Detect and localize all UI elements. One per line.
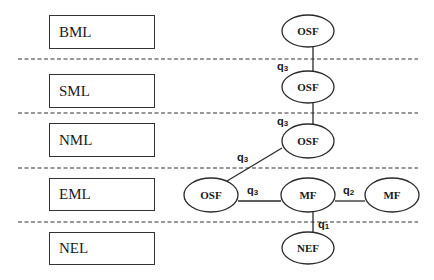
reference-point-label: q2 [343, 184, 355, 197]
layer-box-eml: EML [49, 178, 155, 211]
node-osf_nml: OSF [282, 124, 334, 158]
reference-point-label: q1 [318, 218, 330, 231]
layer-label-eml: EML [59, 186, 91, 203]
node-mf_eml: MF [281, 178, 335, 212]
node-label: MF [383, 189, 400, 201]
ellipse-shape [282, 124, 334, 158]
node-label: OSF [297, 81, 319, 93]
node-mf_eml_right: MF [365, 178, 419, 212]
node-label: NEF [297, 242, 319, 254]
layer-box-nml: NML [49, 123, 155, 157]
layer-label-nel: NEL [59, 240, 88, 257]
layer-box-sml: SML [49, 74, 155, 108]
ellipse-shape [282, 71, 334, 103]
layer-label-sml: SML [59, 83, 90, 100]
reference-point-label: q3 [237, 151, 249, 164]
ellipse-shape [184, 178, 238, 212]
node-osf_eml: OSF [184, 178, 238, 212]
reference-point-label: q3 [277, 60, 289, 73]
ellipse-shape [281, 178, 335, 212]
node-label: MF [299, 189, 316, 201]
layer-box-nel: NEL [49, 232, 155, 265]
layer-label-nml: NML [59, 132, 92, 149]
node-label: OSF [297, 135, 319, 147]
node-osf_sml: OSF [282, 71, 334, 103]
ellipse-shape [282, 15, 334, 47]
node-label: OSF [297, 25, 319, 37]
reference-point-links: q3q3q3q3q2q1 [227, 47, 365, 232]
layer-box-bml: BML [49, 15, 155, 49]
ellipse-shape [282, 232, 334, 264]
link-osf_nml-osf_eml [227, 148, 282, 181]
reference-point-label: q3 [277, 115, 289, 128]
layer-label-bml: BML [59, 24, 92, 41]
reference-point-label: q3 [247, 184, 259, 197]
function-nodes: OSFOSFOSFOSFMFMFNEF [184, 15, 419, 264]
ellipse-shape [365, 178, 419, 212]
node-osf_bml: OSF [282, 15, 334, 47]
management-layers-diagram: BML SML NML EML NEL q3q3q3q3q2q1 OSFOSFO… [0, 0, 434, 280]
node-label: OSF [200, 189, 222, 201]
node-nef_nel: NEF [282, 232, 334, 264]
